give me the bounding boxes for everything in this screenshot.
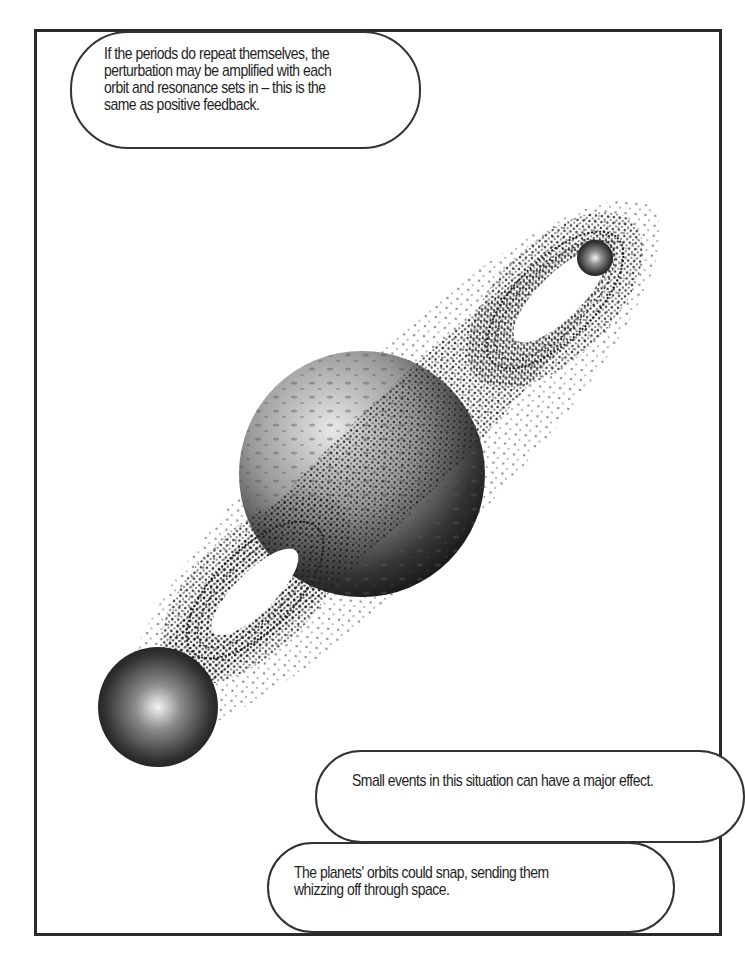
caption-text: The planets' orbits could snap, sending …	[294, 864, 671, 898]
caption-bubble-small-events: Small events in this situation can have …	[315, 750, 745, 843]
caption-bubble-orbits-snap: The planets' orbits could snap, sending …	[267, 842, 675, 933]
caption-text: If the periods do repeat themselves, the…	[104, 45, 416, 113]
caption-text: Small events in this situation can have …	[352, 772, 737, 789]
caption-bubble-resonance: If the periods do repeat themselves, the…	[70, 31, 421, 149]
small-moon	[577, 240, 613, 276]
large-moon	[98, 647, 218, 767]
